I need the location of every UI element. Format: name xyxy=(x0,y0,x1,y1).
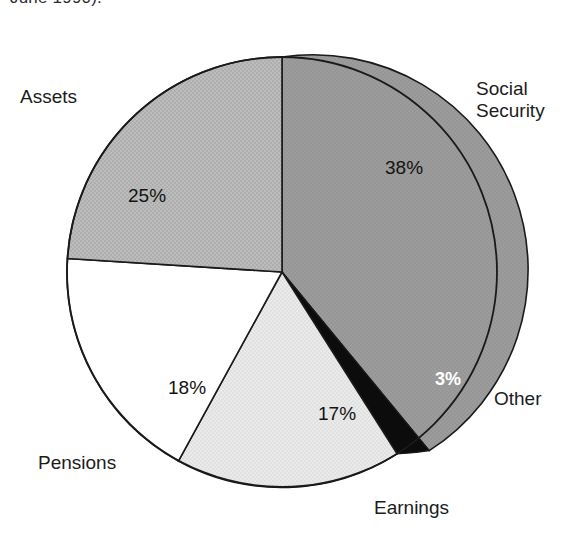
slice-label-social-security-line1: Social xyxy=(476,78,545,100)
slice-value-earnings: 17% xyxy=(318,403,356,425)
slice-label-earnings: Earnings xyxy=(374,497,449,519)
slice-label-social-security: Social Security xyxy=(476,78,545,123)
pie-slice-assets[interactable] xyxy=(68,57,283,272)
slice-label-assets: Assets xyxy=(20,86,77,108)
slice-value-assets: 25% xyxy=(128,185,166,207)
slice-label-social-security-line2: Security xyxy=(476,100,545,122)
slice-value-social-security: 38% xyxy=(385,157,423,179)
slice-value-other: 3% xyxy=(435,369,461,390)
pie-chart-page: June 1990). xyxy=(0,0,581,541)
slice-value-pensions: 18% xyxy=(168,377,206,399)
slice-label-other: Other xyxy=(494,388,542,410)
slice-label-pensions: Pensions xyxy=(38,452,116,474)
